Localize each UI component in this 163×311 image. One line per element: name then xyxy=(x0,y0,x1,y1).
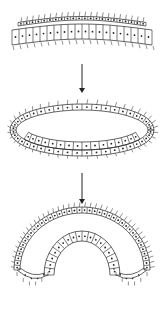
stage-3-invaginated-cup xyxy=(11,202,155,285)
stage-2-hollow-ring xyxy=(8,99,159,159)
stage-1-flat-sheet xyxy=(12,12,154,50)
diagram-canvas xyxy=(0,0,163,311)
arrow-1-icon xyxy=(79,64,85,93)
arrow-2-icon xyxy=(79,173,85,204)
